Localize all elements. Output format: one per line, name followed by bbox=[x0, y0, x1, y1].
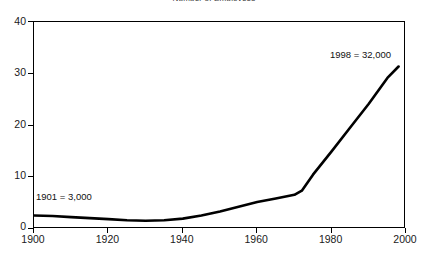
y-tick-label-30: 30 bbox=[0, 67, 26, 78]
chart-title: Number of Employees bbox=[0, 0, 428, 1]
annotation-start-point: 1901 = 3,000 bbox=[36, 191, 92, 202]
x-tick-label-1940: 1940 bbox=[157, 234, 207, 245]
y-tick-label-40: 40 bbox=[0, 16, 26, 27]
x-tick-label-1920: 1920 bbox=[82, 234, 132, 245]
x-tick-label-1980: 1980 bbox=[306, 234, 356, 245]
chart-container: Number of Employees 40 30 20 10 0 1900 1… bbox=[0, 0, 428, 259]
y-tick-label-10: 10 bbox=[0, 170, 26, 181]
annotation-end-point: 1998 = 32,000 bbox=[330, 49, 391, 60]
y-tick-label-0: 0 bbox=[0, 221, 26, 232]
y-tick-label-20: 20 bbox=[0, 119, 26, 130]
x-tick-label-1900: 1900 bbox=[8, 234, 58, 245]
x-tick-label-2000: 2000 bbox=[380, 234, 428, 245]
x-tick-label-1960: 1960 bbox=[231, 234, 281, 245]
